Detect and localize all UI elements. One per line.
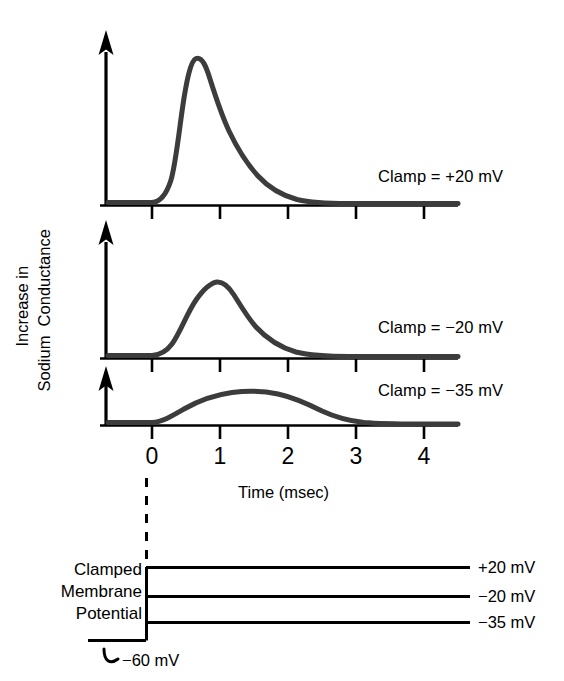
- stimulus-trace-label-plus20: +20 mV: [478, 559, 535, 576]
- panel-minus20: [99, 220, 459, 372]
- y-axis-label-line2: Sodium Conductance: [36, 229, 53, 391]
- stimulus-trace-label-minus35: −35 mV: [478, 614, 535, 631]
- y-axis-arrowhead-panel1: [99, 30, 114, 55]
- stimulus-axis-label-line1: Clamped: [22, 559, 142, 581]
- resting-potential-pointer-icon: [104, 649, 118, 662]
- y-axis-arrowhead-panel2: [99, 220, 114, 245]
- y-axis-label-line1: Increase in: [14, 266, 31, 347]
- x-axis-ticks-panel1: [152, 206, 424, 220]
- sodium-conductance-figure: Increase in Sodium Conductance Clamp = +…: [0, 0, 564, 681]
- clamp-label-minus35: Clamp = −35 mV: [378, 382, 503, 399]
- x-axis-ticks-panel2: [152, 359, 424, 373]
- stimulus-axis-label-line2: Membrane: [22, 581, 142, 603]
- resting-potential-label: −60 mV: [122, 652, 179, 669]
- clamp-label-minus20: Clamp = −20 mV: [378, 319, 503, 336]
- stimulus-trace-label-minus20: −20 mV: [478, 588, 535, 605]
- clamp-label-plus20: Clamp = +20 mV: [378, 168, 503, 185]
- panel-plus20: [99, 30, 459, 219]
- x-axis-ticks-panel3: [152, 426, 424, 440]
- panel-minus35: [99, 366, 459, 439]
- stimulus-axis-label-line3: Potential: [22, 603, 142, 625]
- x-tick-label-2: 2: [273, 445, 303, 468]
- stimulus-diagram: [88, 567, 470, 662]
- x-tick-label-4: 4: [409, 445, 439, 468]
- x-axis-title: Time (msec): [238, 484, 329, 501]
- x-tick-label-1: 1: [205, 445, 235, 468]
- x-tick-label-3: 3: [341, 445, 371, 468]
- x-tick-label-0: 0: [137, 445, 167, 468]
